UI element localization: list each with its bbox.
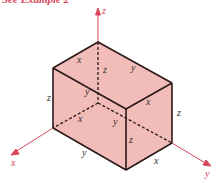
y-axis-label: y xyxy=(204,168,210,179)
edge-label-left-vertical: z xyxy=(46,92,51,103)
edge-label-bottom-hidden-y: y xyxy=(112,116,118,127)
edge-label-right-vertical: z xyxy=(176,107,181,118)
z-axis-label: z xyxy=(101,5,106,16)
edge-label-bottom-front-right: x xyxy=(153,155,159,166)
edge-label-top-back-right: y xyxy=(130,62,136,73)
edge-label-top-front-left: y xyxy=(84,86,90,97)
edge-label-bottom-front-left: y xyxy=(81,147,87,158)
z-axis-arrow-icon xyxy=(96,8,101,15)
edge-label-top-back-left: x xyxy=(76,54,82,65)
edge-label-top-front-right: x xyxy=(145,96,151,107)
box-faces xyxy=(53,42,172,170)
x-axis xyxy=(15,128,53,152)
x-axis-label: x xyxy=(10,157,16,168)
y-axis-arrow-icon xyxy=(203,160,211,166)
edge-label-back-vertical: z xyxy=(102,64,107,75)
edge-label-front-vertical: z xyxy=(128,134,133,145)
y-axis xyxy=(172,143,207,164)
edge-label-bottom-hidden-x: x xyxy=(77,113,83,124)
rectangular-box-diagram: z x y x y z z y x z x y z y x xyxy=(0,0,218,183)
